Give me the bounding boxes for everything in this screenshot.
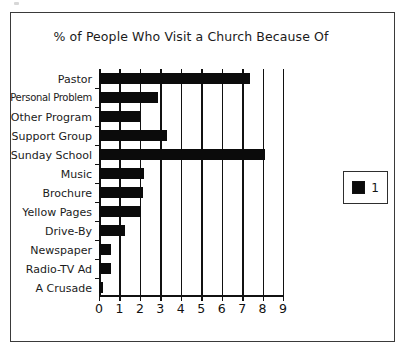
x-tick-label-3: 3 [156, 301, 164, 316]
y-tick [95, 240, 100, 241]
bar [99, 149, 265, 161]
x-tick-label-9: 9 [279, 301, 287, 316]
bar [99, 73, 250, 85]
bar [99, 244, 111, 256]
category-label-newspaper: Newspaper [30, 244, 92, 255]
gridline-x-8 [263, 69, 264, 297]
category-axis-labels: PastorPersonal ProblemOther ProgramSuppo… [11, 69, 97, 297]
bar [99, 282, 103, 294]
gridline-x-3 [160, 69, 161, 297]
y-tick [95, 183, 100, 184]
y-tick [95, 278, 100, 279]
chart-legend: 1 [343, 171, 388, 204]
category-label-other-program: Other Program [11, 111, 92, 122]
x-tick-label-8: 8 [259, 301, 267, 316]
bar [99, 263, 111, 275]
y-tick [95, 164, 100, 165]
bar [99, 130, 167, 142]
category-label-music: Music [61, 168, 92, 179]
gridline-x-4 [181, 69, 182, 297]
y-tick [95, 107, 100, 108]
y-tick [95, 259, 100, 260]
chart-title: % of People Who Visit a Church Because O… [11, 29, 371, 44]
plot-area: 0123456789 [99, 69, 283, 297]
category-label-yellow-pages: Yellow Pages [22, 206, 92, 217]
category-label-radio-tv-ad: Radio-TV Ad [26, 263, 92, 274]
bar [99, 111, 140, 123]
y-tick [95, 88, 100, 89]
y-tick [95, 221, 100, 222]
plot-inner [99, 69, 283, 297]
scan-artifact-speck [14, 2, 19, 5]
gridline-x-6 [222, 69, 223, 297]
bar [99, 225, 125, 237]
legend-label: 1 [371, 182, 379, 194]
x-tick-label-2: 2 [136, 301, 144, 316]
y-tick [95, 126, 100, 127]
gridline-x-5 [201, 69, 202, 297]
x-tick-label-5: 5 [197, 301, 205, 316]
gridline-x-9 [283, 69, 284, 297]
category-label-personal-problem: Personal Problem [10, 93, 92, 103]
x-tick-label-6: 6 [218, 301, 226, 316]
x-axis-line [99, 295, 283, 297]
bar [99, 168, 144, 180]
category-label-support-group: Support Group [12, 130, 92, 141]
gridline-x-7 [242, 69, 243, 297]
x-tick-label-1: 1 [115, 301, 123, 316]
category-label-pastor: Pastor [58, 73, 92, 84]
chart-figure-frame: % of People Who Visit a Church Because O… [10, 12, 395, 342]
category-label-a-crusade: A Crusade [36, 282, 92, 293]
y-tick [95, 202, 100, 203]
category-label-sunday-school: Sunday School [11, 149, 92, 160]
x-tick-label-7: 7 [238, 301, 246, 316]
bar [99, 206, 141, 218]
y-tick [95, 145, 100, 146]
x-tick-label-4: 4 [177, 301, 185, 316]
category-label-brochure: Brochure [42, 187, 92, 198]
bar [99, 187, 143, 199]
category-label-drive-by: Drive-By [45, 225, 92, 236]
bar [99, 92, 158, 104]
legend-swatch-icon [352, 181, 365, 194]
x-tick-label-0: 0 [95, 301, 103, 316]
